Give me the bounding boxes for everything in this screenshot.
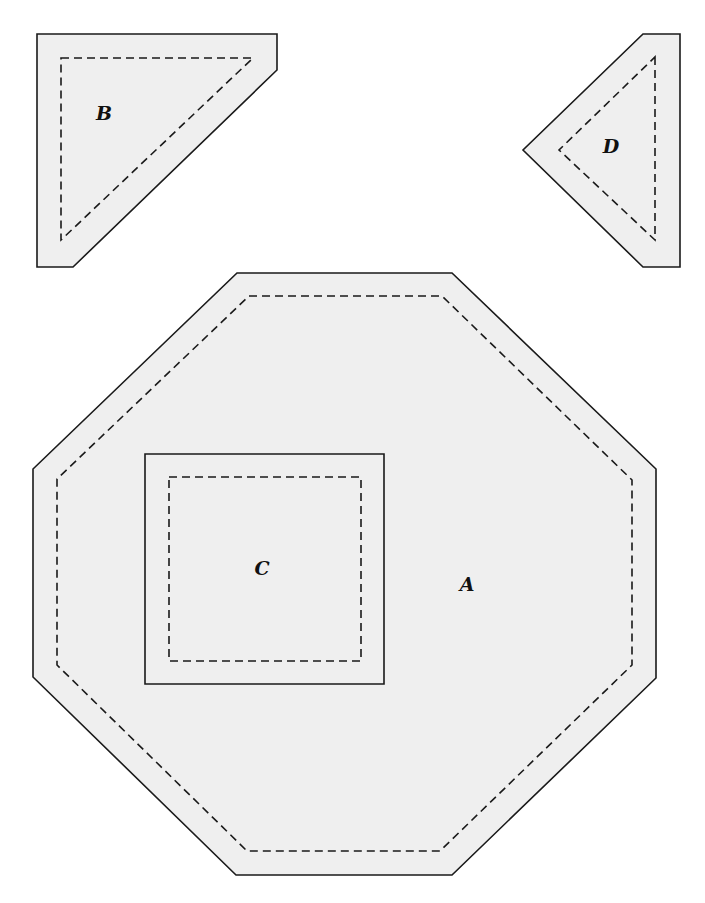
piece-c-label: C — [254, 557, 269, 579]
piece-a-label: A — [458, 573, 475, 595]
piece-c: C — [145, 454, 384, 684]
piece-d: D — [523, 34, 680, 267]
piece-d-cut-line — [523, 34, 680, 267]
piece-d-label: D — [602, 135, 620, 157]
quilt-pattern-diagram: B D A C — [0, 0, 705, 903]
piece-b-label: B — [95, 102, 112, 124]
piece-b: B — [37, 34, 277, 267]
